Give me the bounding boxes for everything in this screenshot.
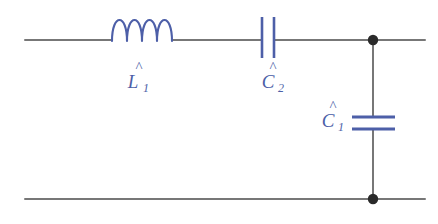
c1-letter: C [322,110,335,131]
label-inductor-l1: ^ L 1 [127,59,149,95]
c1-subscript: 1 [338,120,344,134]
capacitor-c1-symbol [352,117,395,129]
circuit-canvas: ^ L 1 ^ C 2 ^ C 1 [0,0,438,224]
node-bottom-junction-dot [368,194,378,204]
inductor-l1-symbol [112,20,172,41]
l1-letter: L [127,71,139,92]
c2-letter: C [262,71,275,92]
c2-subscript: 2 [278,81,284,95]
label-capacitor-c2: ^ C 2 [262,59,284,95]
circuit-diagram: ^ L 1 ^ C 2 ^ C 1 [0,0,438,224]
capacitor-c2-symbol [262,17,274,58]
inductor-coil-path [112,20,172,41]
l1-subscript: 1 [143,81,149,95]
node-top-junction-dot [368,35,378,45]
label-capacitor-c1: ^ C 1 [322,98,344,134]
